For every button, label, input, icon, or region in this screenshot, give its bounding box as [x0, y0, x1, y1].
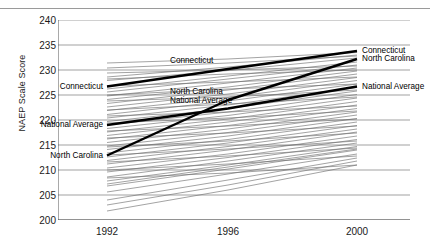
- annotation-north-carolina-2000: North Carolina: [362, 55, 415, 63]
- y-tick-210: 210: [39, 165, 56, 176]
- annotation-connecticut-1992: Connecticut: [60, 83, 103, 91]
- x-tick-2000: 2000: [346, 226, 368, 237]
- y-tick-225: 225: [39, 90, 56, 101]
- x-tick-1992: 1992: [96, 226, 118, 237]
- annotation-national-average-1992: National Average: [41, 121, 103, 129]
- y-tick-215: 215: [39, 140, 56, 151]
- annotation-national-average-1996: National Average: [170, 97, 232, 105]
- y-tick-230: 230: [39, 65, 56, 76]
- y-tick-205: 205: [39, 190, 56, 201]
- annotation-north-carolina-1996: North Carolina: [170, 88, 223, 96]
- annotation-national-average-2000: National Average: [362, 83, 424, 91]
- annotation-connecticut-1996: Connecticut: [170, 57, 213, 65]
- annotation-north-carolina-1992: North Carolina: [50, 152, 103, 160]
- y-tick-235: 235: [39, 40, 56, 51]
- y-tick-240: 240: [39, 15, 56, 26]
- y-tick-200: 200: [39, 215, 56, 226]
- chart-root: NAEP Scale Score 20020521021522022523023…: [0, 0, 430, 246]
- plot-area: [58, 20, 410, 220]
- x-tick-1996: 1996: [217, 226, 239, 237]
- series-line-state-51: [107, 149, 357, 184]
- top-divider-rule: [0, 8, 430, 9]
- slopegraph-lines: [58, 20, 410, 220]
